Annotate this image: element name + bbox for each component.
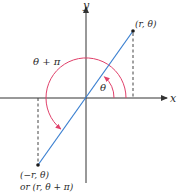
- polar-diagram: y x (r, θ) (−r, θ) or (r, θ + π) θ θ + π: [0, 0, 177, 193]
- diagram-canvas: y x (r, θ) (−r, θ) or (r, θ + π) θ θ + π: [0, 0, 177, 193]
- x-axis-label: x: [170, 92, 177, 105]
- theta-label: θ: [100, 82, 106, 93]
- point-r-theta: [131, 29, 135, 33]
- point-neg-r-theta-label-line1: (−r, θ): [20, 170, 50, 180]
- point-neg-r-theta-label-line2: or (r, θ + π): [20, 182, 74, 192]
- point-neg-r-theta: [36, 163, 40, 167]
- point-r-theta-label: (r, θ): [135, 19, 157, 29]
- theta-plus-pi-label: θ + π: [33, 56, 61, 67]
- y-axis-label: y: [82, 0, 90, 12]
